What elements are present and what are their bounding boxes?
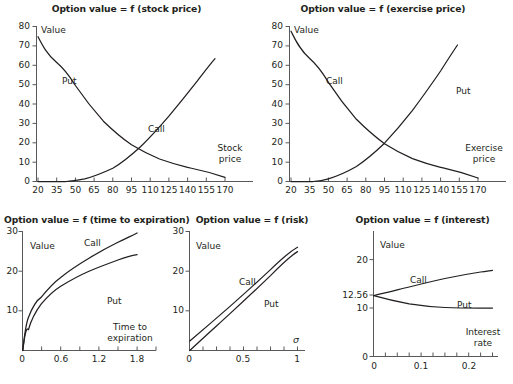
y-tick-label: 10 <box>0 305 18 315</box>
series-label-put: Put <box>456 86 471 97</box>
y-tick-label: 30 <box>2 118 30 128</box>
y-axis-name: Value <box>294 25 319 36</box>
y-tick-label: 10 <box>255 157 283 167</box>
x-axis-name-line2: price <box>456 154 512 165</box>
y-tick-label: 70 <box>255 40 283 50</box>
x-axis-name-line1: Interest <box>457 327 509 338</box>
series-label-call: Call <box>239 277 256 288</box>
y-tick-label: 20 <box>255 137 283 147</box>
y-tick-label: 70 <box>2 40 30 50</box>
x-tick-label: 0 <box>364 361 384 371</box>
y-tick-label: 20 <box>2 137 30 147</box>
y-tick-label: 20 <box>340 255 368 265</box>
y-tick-label: 40 <box>2 99 30 109</box>
x-ticks <box>374 353 493 357</box>
x-tick-label: 0.6 <box>48 354 74 364</box>
y-tick-label: 30 <box>255 118 283 128</box>
panel-risk: Option value = f (risk) <box>172 205 332 384</box>
x-axis-name-line2: expiration <box>92 333 168 344</box>
panel-stock-price: Option value = f (stock price) <box>0 0 253 205</box>
option-value-figure: Option value = f (stock price) <box>0 0 513 384</box>
y-tick-label: 50 <box>2 79 30 89</box>
x-tick-label: 1.8 <box>124 354 150 364</box>
y-tick-label: 0 <box>340 352 368 362</box>
y-tick-label: 80 <box>2 21 30 31</box>
x-tick-label: 1 <box>287 354 307 364</box>
curve-call <box>190 247 298 341</box>
series-label-put: Put <box>264 299 279 310</box>
y-tick-label: 20 <box>0 266 18 276</box>
y-axis-name: Value <box>41 25 66 36</box>
curve-put <box>374 296 493 308</box>
y-tick-label: 30 <box>0 226 18 236</box>
y-ticks <box>370 260 374 357</box>
x-ticks <box>190 347 298 351</box>
y-tick-label: 10 <box>340 303 368 313</box>
x-axis-name-line2: rate <box>457 338 509 349</box>
x-axis-name: Interest rate <box>457 327 509 348</box>
series-label-call: Call <box>326 76 343 87</box>
x-axis-name-line1: Time to <box>92 322 168 333</box>
x-axis-name: Time to expiration <box>92 322 168 343</box>
x-tick-label: 1.2 <box>86 354 112 364</box>
x-axis-name-line2: price <box>207 154 253 165</box>
y-tick-label: 20 <box>168 266 184 276</box>
y-axis-name: Value <box>196 241 221 252</box>
curve-call <box>374 270 493 295</box>
y-ticks <box>286 27 290 182</box>
x-axis-name-line1: Exercise <box>456 143 512 154</box>
panel-interest: Option value = f (interest) <box>332 205 513 384</box>
panel-title: Option value = f (exercise price) <box>253 3 513 14</box>
curve-put <box>38 37 225 178</box>
y-tick-label: 50 <box>255 79 283 89</box>
y-tick-label: 60 <box>255 60 283 70</box>
y-tick-label: 40 <box>255 99 283 109</box>
series-label-put: Put <box>457 300 472 311</box>
y-axis-name: Value <box>30 241 55 252</box>
curve-put <box>190 252 298 351</box>
series-label-call: Call <box>410 275 427 286</box>
series-label-put: Put <box>62 76 77 87</box>
y-tick-label: 30 <box>168 226 184 236</box>
series-label-call: Call <box>148 124 165 135</box>
y-ticks <box>33 27 37 182</box>
y-tick-label: 12.56 <box>333 290 368 300</box>
x-axis-name: σ <box>293 335 299 346</box>
curve-call <box>291 31 478 178</box>
x-tick-label: 0 <box>12 354 32 364</box>
x-axis-name: Stock price <box>207 143 253 164</box>
panel-time-to-expiration: Option value = f (time to expiration) <box>0 205 172 384</box>
x-axis-name-line1: Stock <box>207 143 253 154</box>
series-label-put: Put <box>107 296 122 307</box>
panel-title: Option value = f (time to expiration) <box>4 214 172 225</box>
series-label-call: Call <box>84 238 101 249</box>
y-axis-name: Value <box>380 240 405 251</box>
x-tick-label: 0.5 <box>230 354 256 364</box>
y-ticks <box>19 232 23 311</box>
x-tick-label: 0.2 <box>456 361 482 371</box>
x-tick-label: 170 <box>212 185 238 195</box>
x-tick-label: 0.1 <box>408 361 434 371</box>
y-tick-label: 60 <box>2 60 30 70</box>
x-tick-label: 170 <box>465 185 491 195</box>
x-axis-name: Exercise price <box>456 143 512 164</box>
y-tick-label: 80 <box>255 21 283 31</box>
x-ticks <box>23 347 157 351</box>
y-tick-label: 10 <box>2 157 30 167</box>
y-tick-label: 10 <box>168 305 184 315</box>
y-ticks <box>186 232 190 311</box>
panel-title: Option value = f (stock price) <box>0 3 253 14</box>
x-tick-label: 0 <box>179 354 199 364</box>
panel-title: Option value = f (risk) <box>172 214 332 225</box>
panel-exercise-price: Option value = f (exercise price) <box>253 0 513 205</box>
panel-title: Option value = f (interest) <box>332 214 513 225</box>
